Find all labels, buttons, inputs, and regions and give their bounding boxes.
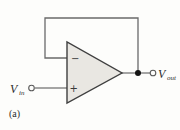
junction-dot	[135, 70, 141, 76]
output-terminal-circle	[150, 70, 156, 76]
vout-label: V	[158, 67, 167, 81]
vin-subscript: in	[19, 89, 25, 97]
vout-subscript: out	[167, 74, 177, 82]
figure-caption: (a)	[9, 108, 20, 120]
opamp-triangle	[67, 42, 122, 103]
circuit-diagram-canvas: − + V in V out (a)	[0, 0, 180, 130]
opamp-voltage-follower-figure: − + V in V out (a)	[0, 0, 180, 130]
inverting-input-sign: −	[71, 53, 79, 64]
input-terminal-circle	[29, 85, 35, 91]
noninverting-input-sign: +	[70, 83, 78, 94]
vin-label: V	[10, 82, 19, 96]
